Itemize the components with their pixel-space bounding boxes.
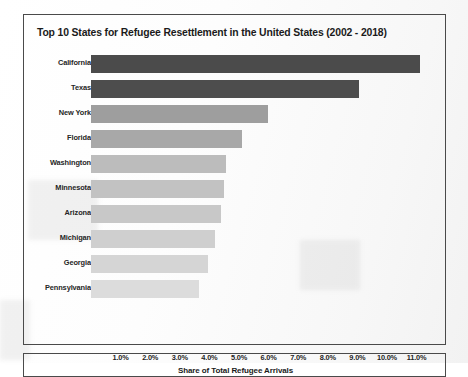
- bar-category-label: New York: [0, 108, 91, 117]
- bar: [91, 130, 242, 148]
- bar-row: California: [24, 53, 447, 78]
- bar-row: Arizona: [24, 203, 447, 228]
- bar-row: Michigan: [24, 228, 447, 253]
- plot-area: CaliforniaTexasNew YorkFloridaWashington…: [24, 53, 447, 318]
- bar-row: Washington: [24, 153, 447, 178]
- bar: [91, 180, 224, 198]
- bar-category-label: Pennsylvania: [0, 283, 91, 292]
- chart-panel: Top 10 States for Refugee Resettlement i…: [23, 14, 446, 345]
- bar-category-label: Florida: [0, 133, 91, 142]
- bar-category-label: Michigan: [0, 233, 91, 242]
- bar: [91, 80, 359, 98]
- bar-row: New York: [24, 103, 447, 128]
- chart-title: Top 10 States for Refugee Resettlement i…: [37, 27, 437, 38]
- bar-row: Texas: [24, 78, 447, 103]
- bar-category-label: Georgia: [0, 258, 91, 267]
- bar: [91, 230, 215, 248]
- bar: [91, 155, 226, 173]
- bar: [91, 205, 221, 223]
- bar: [91, 280, 199, 298]
- bar-row: Pennsylvania: [24, 278, 447, 303]
- bar: [91, 255, 208, 273]
- bar: [91, 105, 268, 123]
- bar-category-label: Minnesota: [0, 183, 91, 192]
- bar-category-label: Arizona: [0, 208, 91, 217]
- bar-category-label: Texas: [0, 83, 91, 92]
- bar-row: Minnesota: [24, 178, 447, 203]
- bar-row: Florida: [24, 128, 447, 153]
- bar: [91, 55, 420, 73]
- bar-category-label: Washington: [0, 158, 91, 167]
- secondary-empty-panel: [23, 353, 446, 377]
- bar-category-label: California: [0, 58, 91, 67]
- bar-row: Georgia: [24, 253, 447, 278]
